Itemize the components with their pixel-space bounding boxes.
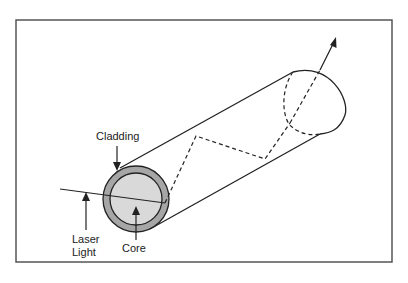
- exit-arrowhead: [330, 37, 337, 48]
- frame: [16, 20, 392, 262]
- reflection-path: [165, 123, 290, 203]
- exit-path-dashed: [290, 70, 320, 123]
- exit-beam: [320, 42, 334, 70]
- tube-end-hidden: [284, 72, 320, 135]
- cladding-label: Cladding: [96, 130, 139, 143]
- laser-label-line2: Light: [72, 246, 96, 259]
- tube-top-edge: [120, 72, 293, 168]
- laser-label-line1: Laser: [72, 233, 100, 246]
- tube-end-cap: [293, 70, 346, 134]
- fiber-diagram: [0, 0, 408, 283]
- core-label: Core: [122, 242, 146, 255]
